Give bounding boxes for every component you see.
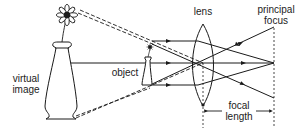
principal-focus-label-1: principal <box>252 4 300 15</box>
flower-icon <box>57 5 78 26</box>
virtual-image-label-1: virtual <box>6 73 46 84</box>
virtual-image-label-2: image <box>6 84 46 95</box>
virtual-ray-lines <box>76 10 203 118</box>
focal-length-label-2: length <box>220 111 258 122</box>
object-label: object <box>108 67 142 78</box>
principal-focus-label-2: focus <box>252 15 300 26</box>
object-bottle <box>142 57 152 85</box>
virtual-image-bottle <box>45 42 77 119</box>
lens-label: lens <box>187 6 219 17</box>
focal-length-label-1: focal <box>220 100 258 111</box>
small-flower-icon <box>147 44 154 51</box>
